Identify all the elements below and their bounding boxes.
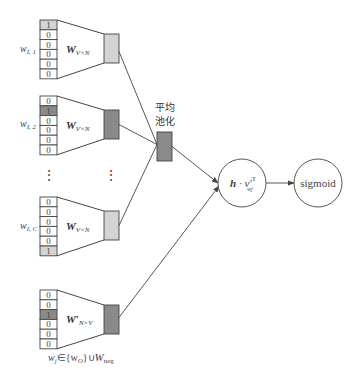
- one-hot-value: 0: [46, 40, 51, 50]
- pooling-label-line2: 池化: [155, 115, 175, 127]
- one-hot-value: 1: [46, 310, 51, 320]
- one-hot-value: 0: [46, 236, 51, 246]
- one-hot-value: 0: [46, 96, 51, 106]
- one-hot-value: 1: [46, 106, 51, 116]
- sigmoid-label: sigmoid: [300, 177, 336, 189]
- input-word-label: wI, 2: [20, 118, 37, 131]
- one-hot-value: 1: [46, 246, 51, 256]
- one-hot-value: 0: [46, 197, 51, 207]
- one-hot-value: 0: [46, 49, 51, 59]
- one-hot-value: 0: [46, 226, 51, 236]
- one-hot-value: 0: [46, 290, 51, 300]
- average-pooling-box: [157, 132, 172, 161]
- weight-matrix-label: WV×N: [66, 119, 90, 133]
- input-block-3: 000001WV×NwI, C: [20, 197, 119, 256]
- one-hot-value: 0: [46, 339, 51, 349]
- projection-edge-bottom: [57, 240, 104, 256]
- embedding-vector-box: [104, 34, 119, 63]
- one-hot-value: 0: [46, 207, 51, 217]
- one-hot-value: 0: [46, 135, 51, 145]
- one-hot-value: 0: [46, 319, 51, 329]
- edge-output-to-dot: [119, 186, 219, 318]
- embedding-vector-box: [104, 305, 119, 334]
- input-block-2: 010000WV×NwI, 2: [20, 96, 119, 155]
- edge-to-pooling: [119, 125, 157, 145]
- projection-edge-top: [57, 197, 104, 211]
- weight-matrix-label: WV×N: [66, 43, 90, 57]
- ellipsis-right: ⋮: [104, 168, 118, 183]
- projection-edge-top: [57, 96, 104, 110]
- ellipsis-left: ⋮: [42, 168, 56, 183]
- output-word-block: 001000W′N×V: [40, 290, 119, 349]
- one-hot-value: 0: [46, 116, 51, 126]
- input-word-label: wI, C: [20, 220, 38, 233]
- output-word-caption: wj∈{wO}∪Wneg: [48, 351, 114, 365]
- weight-matrix-label: WV×N: [66, 220, 90, 234]
- one-hot-value: 0: [46, 145, 51, 155]
- one-hot-value: 0: [46, 125, 51, 135]
- projection-edge-top: [57, 20, 104, 34]
- projection-edge-bottom: [57, 139, 104, 155]
- edge-to-pooling: [119, 145, 157, 226]
- projection-edge-top: [57, 290, 104, 305]
- dot-product-subscript: wj: [247, 186, 253, 192]
- one-hot-value: 1: [46, 20, 51, 30]
- input-block-1: 100000WV×NwI, 1: [20, 20, 119, 79]
- one-hot-value: 0: [46, 329, 51, 339]
- one-hot-value: 0: [46, 30, 51, 40]
- projection-edge-bottom: [57, 63, 104, 79]
- one-hot-value: 0: [46, 300, 51, 310]
- one-hot-value: 0: [46, 69, 51, 79]
- embedding-vector-box: [104, 211, 119, 240]
- edge-pool-to-dot: [172, 147, 218, 184]
- weight-matrix-label: W′N×V: [66, 313, 93, 327]
- projection-edge-bottom: [57, 334, 104, 349]
- embedding-vector-box: [104, 110, 119, 139]
- network-diagram: 100000WV×NwI, 1010000WV×NwI, 2000001WV×N…: [0, 0, 354, 380]
- input-word-label: wI, 1: [20, 43, 36, 56]
- edge-to-pooling: [119, 52, 157, 145]
- pooling-label-line1: 平均: [155, 102, 175, 113]
- one-hot-value: 0: [46, 217, 51, 227]
- one-hot-value: 0: [46, 59, 51, 69]
